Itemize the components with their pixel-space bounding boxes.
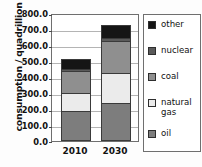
bar-segment-oil[interactable] — [101, 103, 131, 141]
legend-label: oil — [161, 129, 197, 139]
legend-swatch-icon — [148, 99, 156, 107]
bar-chart: consumption / quadrillion BTU 0.0100.020… — [0, 0, 202, 167]
bar-segment-other[interactable] — [101, 25, 131, 38]
legend-label: nuclear — [161, 46, 197, 56]
y-tick-mark — [49, 127, 52, 128]
y-tick-mark — [49, 79, 52, 80]
legend-label: natural gas — [161, 98, 197, 117]
y-tick-label: 700.0 — [12, 26, 48, 34]
bar-segment-natural-gas[interactable] — [101, 73, 131, 103]
x-tick-label-2030: 2030 — [90, 146, 140, 156]
legend-swatch-icon — [148, 21, 156, 29]
bar-segment-coal[interactable] — [61, 71, 91, 93]
y-tick-label: 100.0 — [12, 122, 48, 130]
y-tick-mark — [49, 47, 52, 48]
legend-label: coal — [161, 72, 197, 82]
legend-item-coal[interactable]: coal — [148, 72, 197, 82]
legend-swatch-icon — [148, 130, 156, 138]
bar-segment-oil[interactable] — [61, 111, 91, 141]
y-tick-label: 200.0 — [12, 106, 48, 114]
bar-segment-other[interactable] — [61, 59, 91, 69]
legend: othernuclearcoalnatural gasoil — [143, 14, 201, 152]
legend-swatch-icon — [148, 73, 156, 81]
y-tick-mark — [49, 31, 52, 32]
y-tick-label: 600.0 — [12, 42, 48, 50]
y-tick-label: 300.0 — [12, 90, 48, 98]
legend-item-nuclear[interactable]: nuclear — [148, 46, 197, 56]
y-tick-label: 400.0 — [12, 74, 48, 82]
y-tick-label: 0.0 — [12, 138, 48, 146]
y-tick-mark — [49, 15, 52, 16]
y-axis-tick-labels: 0.0100.0200.0300.0400.0500.0600.0700.080… — [12, 14, 48, 142]
bar-2030[interactable] — [101, 25, 131, 141]
y-tick-label: 500.0 — [12, 58, 48, 66]
bar-segment-natural-gas[interactable] — [61, 93, 91, 111]
y-tick-mark — [49, 95, 52, 96]
y-tick-mark — [49, 111, 52, 112]
y-tick-mark — [49, 63, 52, 64]
bar-segment-nuclear[interactable] — [101, 38, 131, 41]
legend-item-other[interactable]: other — [148, 20, 197, 30]
bar-2010[interactable] — [61, 59, 91, 141]
bar-segment-coal[interactable] — [101, 41, 131, 73]
legend-swatch-icon — [148, 47, 156, 55]
y-tick-label: 800.0 — [12, 10, 48, 18]
legend-label: other — [161, 20, 197, 30]
legend-item-natural-gas[interactable]: natural gas — [148, 98, 197, 117]
bar-segment-nuclear[interactable] — [61, 69, 91, 71]
y-tick-mark — [49, 142, 52, 143]
plot-area — [51, 14, 139, 142]
legend-item-oil[interactable]: oil — [148, 129, 197, 139]
